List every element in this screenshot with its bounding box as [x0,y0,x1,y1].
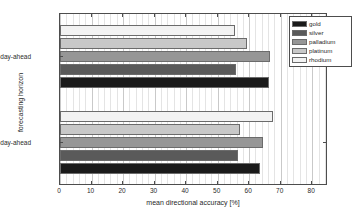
x-tick-mark [185,13,186,17]
x-tick-label: 30 [139,187,169,194]
x-tick-mark [59,181,60,185]
x-tick-label: 40 [170,187,200,194]
x-tick-mark [122,13,123,17]
legend-label-silver: silver [309,29,323,36]
x-tick-mark [311,181,312,185]
x-tick-mark [91,181,92,185]
legend-label-gold: gold [309,20,321,27]
bar-palladium-1-day-ahead [60,137,263,149]
x-tick-label: 60 [233,187,263,194]
bar-series-layer [60,14,326,184]
x-tick-mark [122,181,123,185]
bar-platinum-5-day-ahead [60,38,247,50]
bar-gold-1-day-ahead [60,163,260,175]
x-tick-label: 50 [202,187,232,194]
x-tick-mark [91,13,92,17]
y-tick-mark [323,142,327,143]
x-tick-mark [280,181,281,185]
legend-swatch-silver [292,30,307,36]
bar-silver-5-day-ahead [60,64,236,76]
x-tick-label: 20 [107,187,137,194]
legend-item-palladium: palladium [292,37,349,46]
legend-swatch-gold [292,21,307,27]
x-tick-mark [154,181,155,185]
legend-item-rhodium: rhodium [292,55,349,64]
x-axis-label: mean directional accuracy [%] [59,199,327,206]
legend: goldsilverpalladiumplatinumrhodium [289,16,352,67]
legend-item-gold: gold [292,19,349,28]
legend-swatch-platinum [292,48,307,54]
x-tick-mark [59,13,60,17]
x-tick-label: 0 [44,187,74,194]
x-tick-mark [248,181,249,185]
x-tick-mark [248,13,249,17]
x-tick-mark [217,181,218,185]
x-tick-mark [185,181,186,185]
legend-swatch-rhodium [292,57,307,63]
x-tick-mark [217,13,218,17]
bar-platinum-1-day-ahead [60,124,240,136]
bar-palladium-5-day-ahead [60,51,270,63]
legend-label-palladium: palladium [309,38,335,45]
x-tick-label: 10 [76,187,106,194]
legend-swatch-palladium [292,39,307,45]
y-axis-label: forecasting horizon [17,58,24,148]
y-tick-mark [59,142,63,143]
bar-gold-5-day-ahead [60,77,269,89]
y-tick-label-5-day-ahead: 5-day-ahead [0,53,31,60]
plot-area [59,13,327,185]
legend-label-rhodium: rhodium [309,56,331,63]
chart-figure: 01020304050607080 1-day-ahead5-day-ahead… [0,0,363,221]
x-tick-mark [280,13,281,17]
bar-rhodium-1-day-ahead [60,111,273,123]
bar-silver-1-day-ahead [60,150,238,162]
legend-item-silver: silver [292,28,349,37]
bar-rhodium-5-day-ahead [60,25,235,37]
y-tick-mark [59,56,63,57]
x-tick-label: 80 [296,187,326,194]
legend-item-platinum: platinum [292,46,349,55]
y-tick-label-1-day-ahead: 1-day-ahead [0,139,31,146]
x-tick-mark [154,13,155,17]
x-tick-label: 70 [265,187,295,194]
legend-label-platinum: platinum [309,47,332,54]
